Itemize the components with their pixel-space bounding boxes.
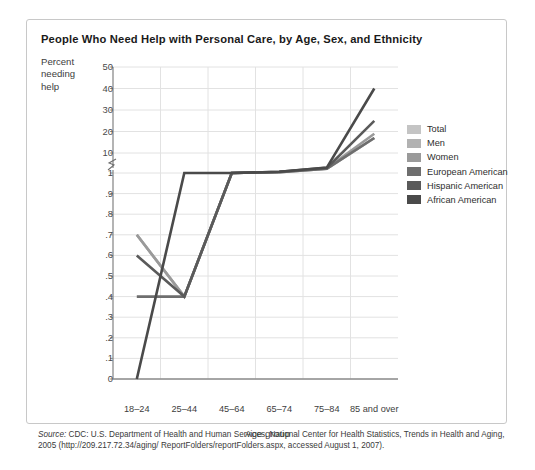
chart-legend: TotalMenWomenEuropean AmericanHispanic A…	[407, 124, 507, 209]
y-tick-label: 40	[79, 83, 113, 94]
legend-label: Hispanic American	[427, 181, 503, 191]
legend-item[interactable]: African American	[407, 195, 507, 205]
x-tick-label: 75–84	[314, 404, 340, 414]
x-tick-label: 45–64	[219, 404, 245, 414]
legend-label: Total	[427, 124, 446, 134]
y-tick-label: .4	[79, 291, 113, 302]
x-tick-label: 85 and over	[350, 404, 399, 414]
legend-label: African American	[427, 195, 496, 205]
y-tick-label: .8	[79, 208, 113, 219]
y-tick-label: .3	[79, 311, 113, 322]
y-tick-label: 0	[79, 373, 113, 384]
y-tick-label: .2	[79, 332, 113, 343]
source-prefix: Source:	[38, 430, 66, 439]
screenshot-root: People Who Need Help with Personal Care,…	[0, 0, 535, 470]
legend-item[interactable]: Men	[407, 138, 507, 148]
legend-item[interactable]: European American	[407, 167, 507, 177]
y-axis-ticks: 50403020101.9.8.7.6.5.4.3.2.10	[79, 20, 113, 425]
legend-swatch-icon	[407, 167, 421, 176]
legend-swatch-icon	[407, 181, 421, 190]
y-tick-label: 30	[79, 104, 113, 115]
legend-item[interactable]: Total	[407, 124, 507, 134]
x-tick-label: 18–24	[124, 404, 150, 414]
legend-item[interactable]: Women	[407, 152, 507, 162]
gridlines	[113, 67, 398, 379]
plot-area: 50403020101.9.8.7.6.5.4.3.2.10 18–2425–4…	[27, 20, 508, 425]
y-tick-label: .6	[79, 249, 113, 260]
axis-lines	[108, 67, 398, 379]
legend-swatch-icon	[407, 153, 421, 162]
y-tick-label: 10	[79, 147, 113, 158]
y-tick-label: .7	[79, 229, 113, 240]
legend-label: Women	[427, 152, 459, 162]
legend-swatch-icon	[407, 195, 421, 204]
legend-label: European American	[427, 167, 508, 177]
legend-swatch-icon	[407, 139, 421, 148]
source-text: CDC: U.S. Department of Health and Human…	[38, 430, 504, 450]
y-tick-label: 50	[79, 61, 113, 72]
legend-swatch-icon	[407, 125, 421, 134]
y-tick-label: 20	[79, 126, 113, 137]
x-tick-label: 65–74	[266, 404, 292, 414]
legend-item[interactable]: Hispanic American	[407, 181, 507, 191]
legend-label: Men	[427, 138, 445, 148]
y-tick-label: 1	[79, 167, 113, 178]
source-note: Source: CDC: U.S. Department of Health a…	[38, 429, 508, 452]
y-tick-label: .1	[79, 352, 113, 363]
y-tick-label: .9	[79, 188, 113, 199]
x-tick-label: 25–44	[171, 404, 197, 414]
y-tick-label: .5	[79, 270, 113, 281]
chart-card: People Who Need Help with Personal Care,…	[26, 19, 507, 424]
